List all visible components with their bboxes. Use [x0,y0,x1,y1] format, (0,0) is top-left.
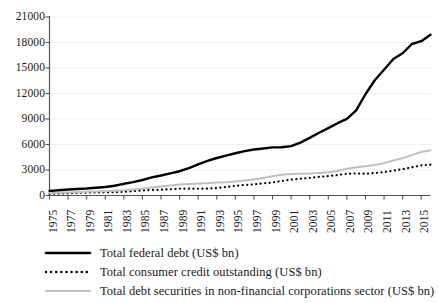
legend-item: Total federal debt (US$ bn) [0,243,439,262]
y-tick-label: 21000 [1,11,45,22]
chart-container: 030006000900012000150001800021000 197519… [0,0,439,303]
legend-item: Total consumer credit outstanding (US$ b… [0,262,439,281]
y-tick-label: 0 [1,190,45,201]
y-tick-label: 6000 [1,139,45,150]
legend-label: Total federal debt (US$ bn) [100,246,239,260]
y-tick-label: 12000 [1,88,45,99]
series-line-2 [50,165,431,194]
gridlines [50,17,431,170]
legend-label: Total consumer credit outstanding (US$ b… [100,265,322,279]
x-axis-tick-marks [50,196,422,200]
y-tick-label: 18000 [1,37,45,48]
legend-swatch-solid-thick-black [44,246,92,260]
y-tick-label: 3000 [1,164,45,175]
y-tick-label: 9000 [1,113,45,124]
y-tick-label: 15000 [1,62,45,73]
legend-item: Total debt securities in non-financial c… [0,281,439,300]
chart-legend: Total federal debt (US$ bn)Total consume… [0,243,439,300]
legend-swatch-dotted-black [44,265,92,279]
series-line-1 [50,35,431,191]
legend-swatch-solid-thin-gray [44,284,92,298]
legend-label: Total debt securities in non-financial c… [100,284,434,298]
